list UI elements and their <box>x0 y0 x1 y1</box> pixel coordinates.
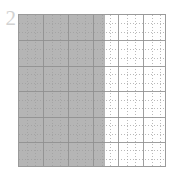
figure-canvas: 2 <box>0 0 176 185</box>
y-axis-tick-label: 2 <box>0 6 16 30</box>
gridline-minor-v <box>110 15 111 166</box>
gridline-major-v <box>143 15 144 166</box>
gridline-minor-v <box>127 15 128 166</box>
gridline-major-v <box>118 15 119 166</box>
shaded-region <box>19 15 105 166</box>
gridline-minor-v <box>160 15 161 166</box>
plot-area[interactable] <box>18 14 166 167</box>
gridline-minor-v <box>135 15 136 166</box>
gridline-minor-v <box>152 15 153 166</box>
